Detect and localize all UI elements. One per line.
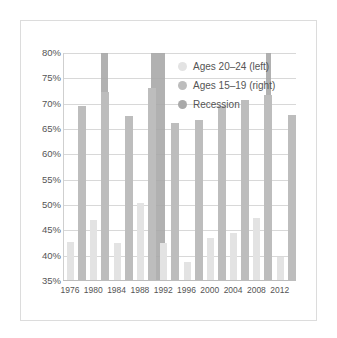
x-tick-label: 2012 xyxy=(265,285,295,295)
y-tick-label: 70% xyxy=(25,99,61,109)
bar-ages-15-19 xyxy=(171,123,179,281)
bar-ages-15-19 xyxy=(288,115,296,281)
gridline xyxy=(63,256,296,257)
gridline xyxy=(63,129,296,130)
y-tick-label: 45% xyxy=(25,225,61,235)
bar-ages-20-24 xyxy=(277,257,284,281)
bar-ages-20-24 xyxy=(230,233,237,281)
bar-ages-15-19 xyxy=(148,88,156,281)
bar-ages-20-24 xyxy=(137,203,144,281)
bar-ages-20-24 xyxy=(160,243,167,282)
bar-ages-20-24 xyxy=(67,242,74,281)
bar-ages-20-24 xyxy=(184,262,191,281)
legend-item-ages-20-24: Ages 20–24 (left) xyxy=(178,57,275,76)
y-axis-line xyxy=(63,53,64,281)
bar-ages-15-19 xyxy=(264,95,272,281)
legend-swatch-icon xyxy=(178,81,187,90)
gridline xyxy=(63,180,296,181)
y-tick-label: 55% xyxy=(25,175,61,185)
bar-ages-20-24 xyxy=(114,243,121,281)
legend-label: Ages 20–24 (left) xyxy=(193,61,269,72)
gridline xyxy=(63,53,296,54)
bar-ages-15-19 xyxy=(241,100,249,281)
legend-item-recession: Recession xyxy=(178,95,275,114)
x-axis-line xyxy=(63,280,296,281)
legend: Ages 20–24 (left) Ages 15–19 (right) Rec… xyxy=(178,57,275,114)
bar-ages-20-24 xyxy=(253,218,260,281)
bar-ages-20-24 xyxy=(90,220,97,281)
legend-item-ages-15-19: Ages 15–19 (right) xyxy=(178,76,275,95)
y-tick-label: 65% xyxy=(25,124,61,134)
y-tick-label: 40% xyxy=(25,251,61,261)
legend-label: Ages 15–19 (right) xyxy=(193,80,275,91)
bar-ages-15-19 xyxy=(78,106,86,281)
bar-ages-15-19 xyxy=(101,92,109,281)
y-tick-label: 75% xyxy=(25,73,61,83)
y-tick-label: 80% xyxy=(25,48,61,58)
y-tick-label: 50% xyxy=(25,200,61,210)
gridline xyxy=(63,154,296,155)
bar-ages-15-19 xyxy=(218,106,226,281)
gridline xyxy=(63,230,296,231)
legend-swatch-icon xyxy=(178,100,187,109)
bar-ages-20-24 xyxy=(207,238,214,281)
y-tick-label: 60% xyxy=(25,149,61,159)
bar-ages-15-19 xyxy=(195,120,203,281)
legend-label: Recession xyxy=(193,99,240,110)
gridline xyxy=(63,205,296,206)
legend-swatch-icon xyxy=(178,62,187,71)
bar-ages-15-19 xyxy=(125,116,133,281)
